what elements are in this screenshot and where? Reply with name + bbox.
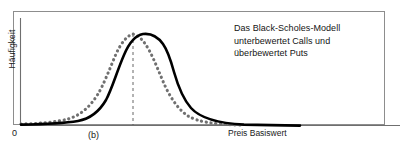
annotation-line-2: unterbewertet Calls und (234, 35, 384, 48)
annotation-line-1: Das Black-Scholes-Modell (234, 22, 384, 35)
origin-label: 0 (12, 128, 17, 138)
annotation-text: Das Black-Scholes-Modell unterbewertet C… (234, 22, 384, 60)
figure-container: Häufigkeit 0 (b) Preis Basiswert Das Bla… (0, 0, 416, 147)
subfigure-label: (b) (88, 130, 99, 140)
lognormal-density-curve (21, 34, 240, 125)
x-axis-label: Preis Basiswert (228, 128, 287, 138)
annotation-line-3: überbewertet Puts (234, 47, 384, 60)
y-axis-label: Häufigkeit (7, 19, 17, 79)
